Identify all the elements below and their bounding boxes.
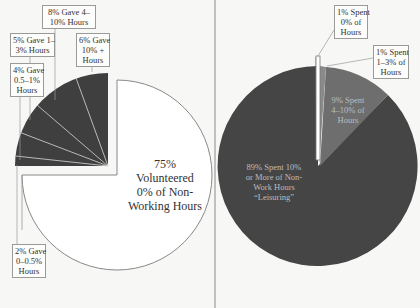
label-line: “Leisuring” xyxy=(234,192,314,202)
label-line: 89% Spent 10% xyxy=(234,162,314,172)
label-line: 10% + xyxy=(79,45,107,55)
label-line: 2% Gave xyxy=(15,246,43,256)
label-volunteered-0: 75% Volunteered 0% of Non- Working Hours xyxy=(120,157,210,213)
label-line: 9% Spent xyxy=(326,95,370,105)
label-line: Hours xyxy=(337,27,365,37)
label-line: 8% Gave 4– xyxy=(45,7,93,17)
label-line: 0% of Non- xyxy=(120,185,210,199)
label-line: 0–0.5% xyxy=(15,256,43,266)
label-line: Hours xyxy=(326,115,370,125)
label-line: Hours xyxy=(13,85,41,95)
label-line: 4% Gave xyxy=(13,65,41,75)
label-line: 0.5–1% xyxy=(13,75,41,85)
label-leisuring-89: 89% Spent 10% or More of Non- Work Hours… xyxy=(234,162,314,202)
label-gave-0-0.5: 2% Gave 0–0.5% Hours xyxy=(12,244,46,278)
label-line: Working Hours xyxy=(120,199,210,213)
label-line: Volunteered xyxy=(120,171,210,185)
label-spent-4-10: 9% Spent 4–10% of Hours xyxy=(326,95,370,125)
label-line: 75% xyxy=(120,157,210,171)
label-line: Hours xyxy=(79,55,107,65)
label-line: 4–10% of xyxy=(326,105,370,115)
label-line: 5% Gave 1– xyxy=(13,35,52,45)
label-line: 1% Spent xyxy=(376,47,406,57)
label-line: or More of Non- xyxy=(234,172,314,182)
label-line: 1% Spent xyxy=(337,7,365,17)
label-line: 0% of xyxy=(337,17,365,27)
label-gave-0.5-1: 4% Gave 0.5–1% Hours xyxy=(10,63,44,97)
label-line: Hours xyxy=(376,67,406,77)
label-spent-1-3: 1% Spent 1–3% of Hours xyxy=(373,45,409,79)
label-gave-10-plus: 6% Gave 10% + Hours xyxy=(76,33,110,67)
label-line: 6% Gave xyxy=(79,35,107,45)
label-line: 10% Hours xyxy=(45,17,93,27)
label-line: Work Hours xyxy=(234,182,314,192)
label-gave-1-3: 5% Gave 1– 3% Hours xyxy=(10,33,55,57)
pie-charts-graphic xyxy=(0,0,420,308)
label-line: 3% Hours xyxy=(13,45,52,55)
label-gave-4-10: 8% Gave 4– 10% Hours xyxy=(42,5,96,29)
label-spent-0: 1% Spent 0% of Hours xyxy=(334,5,368,39)
label-line: 1–3% of xyxy=(376,57,406,67)
label-line: Hours xyxy=(15,266,43,276)
